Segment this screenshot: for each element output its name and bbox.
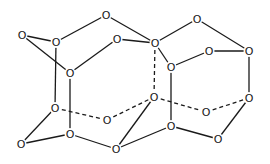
oxygen-atom: O: [201, 106, 212, 119]
oxygen-atom: O: [204, 45, 215, 58]
solid-bond: [171, 126, 218, 139]
molecular-cage-diagram: OOOOOOOOOOOOOOOOOOOO: [0, 0, 270, 164]
atom-label: O: [66, 128, 75, 141]
oxygen-atom: O: [166, 61, 177, 74]
oxygen-atom: O: [111, 143, 122, 156]
dashed-bond: [206, 98, 249, 112]
atom-label: O: [214, 133, 223, 146]
oxygen-atom: O: [244, 92, 255, 105]
atom-label: O: [151, 37, 160, 50]
atom-label: O: [150, 91, 159, 104]
atom-label: O: [113, 33, 122, 46]
atom-label: O: [17, 138, 26, 151]
solid-bond: [70, 134, 116, 149]
atom-label: O: [51, 102, 60, 115]
oxygen-atom: O: [17, 29, 28, 42]
atom-label: O: [205, 45, 214, 58]
oxygen-atom: O: [244, 45, 255, 58]
solid-bond: [56, 15, 106, 42]
atoms-layer: OOOOOOOOOOOOOOOOOOOO: [16, 9, 255, 156]
atom-label: O: [245, 92, 254, 105]
solid-bond: [155, 19, 197, 43]
atom-label: O: [103, 114, 112, 127]
dashed-bond: [154, 43, 155, 97]
dashed-bond: [154, 97, 206, 112]
oxygen-atom: O: [149, 91, 160, 104]
oxygen-atom: O: [102, 114, 113, 127]
atom-label: O: [112, 143, 121, 156]
dashed-bond: [55, 108, 107, 120]
oxygen-atom: O: [166, 120, 177, 133]
atom-label: O: [66, 67, 75, 80]
solid-bond: [171, 51, 209, 67]
oxygen-atom: O: [101, 9, 112, 22]
solid-bond: [70, 39, 117, 73]
atom-label: O: [52, 36, 61, 49]
oxygen-atom: O: [213, 133, 224, 146]
oxygen-atom: O: [112, 33, 123, 46]
atom-label: O: [102, 9, 111, 22]
oxygen-atom: O: [150, 37, 161, 50]
atom-label: O: [193, 13, 202, 26]
oxygen-atom: O: [65, 128, 76, 141]
dashed-bond: [107, 97, 154, 120]
oxygen-atom: O: [50, 102, 61, 115]
oxygen-atom: O: [65, 67, 76, 80]
atom-label: O: [245, 45, 254, 58]
oxygen-atom: O: [51, 36, 62, 49]
atom-label: O: [167, 120, 176, 133]
atom-label: O: [167, 61, 176, 74]
oxygen-atom: O: [16, 138, 27, 151]
solid-bond: [22, 35, 70, 73]
solid-bond: [55, 42, 56, 108]
atom-label: O: [18, 29, 27, 42]
atom-label: O: [202, 106, 211, 119]
oxygen-atom: O: [192, 13, 203, 26]
